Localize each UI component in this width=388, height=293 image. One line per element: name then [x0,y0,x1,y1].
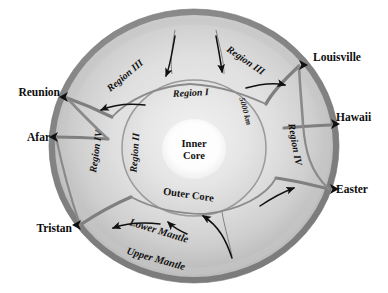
hotspot-label-afar: Afar [27,131,50,143]
inner-core-label-line1: Inner [181,138,206,149]
region-label-i: Region I [172,86,210,99]
hotspot-label-hawaii: Hawaii [336,111,372,123]
mantle-convection-figure: Louisville Hawaii Easter Tristan Afar Re… [0,0,388,293]
hotspot-label-louisville: Louisville [313,51,361,63]
inner-core-label-line2: Core [183,150,205,161]
inner-core [162,119,226,179]
hotspot-label-easter: Easter [336,183,368,195]
hotspot-label-tristan: Tristan [36,222,72,234]
hotspot-label-reunion: Reunion [18,86,60,98]
